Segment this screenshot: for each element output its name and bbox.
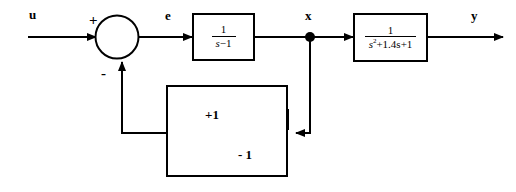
block-relay-hysteresis[interactable] bbox=[166, 85, 288, 177]
block-diagram-canvas: 1 s−1 1 s2+1.4s+1 u e x y + - +1 - 1 bbox=[0, 0, 516, 192]
tf1-numerator: 1 bbox=[212, 24, 236, 36]
wire-relay-to-sum bbox=[122, 62, 166, 133]
label-signal-y: y bbox=[471, 9, 478, 22]
block-plant-first-order[interactable]: 1 s−1 bbox=[192, 13, 255, 61]
label-signal-u: u bbox=[29, 8, 36, 21]
wire-feedback-into-relay bbox=[296, 37, 310, 133]
label-signal-x: x bbox=[305, 9, 312, 22]
tf2-numerator: 1 bbox=[365, 25, 417, 37]
tf1-expression: 1 s−1 bbox=[212, 24, 236, 49]
summing-junction bbox=[96, 16, 139, 59]
label-sum-minus: - bbox=[101, 66, 106, 81]
block-plant-second-order[interactable]: 1 s2+1.4s+1 bbox=[353, 13, 428, 62]
label-sum-plus: + bbox=[89, 13, 98, 28]
label-signal-e: e bbox=[165, 9, 171, 22]
tf1-denominator: s−1 bbox=[212, 36, 236, 50]
label-relay-lower-level: - 1 bbox=[238, 148, 252, 161]
tf2-expression: 1 s2+1.4s+1 bbox=[365, 25, 417, 51]
tf2-denominator: s2+1.4s+1 bbox=[365, 36, 417, 50]
label-relay-upper-level: +1 bbox=[205, 108, 219, 121]
